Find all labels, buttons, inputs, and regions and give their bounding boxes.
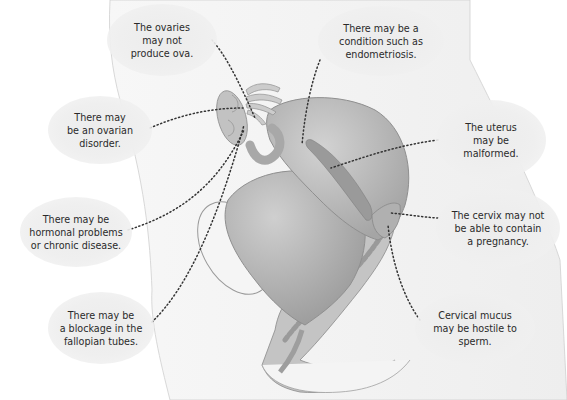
label-text: The uterus may be malformed.: [463, 121, 518, 160]
label-text: There may be a blockage in the fallopian…: [60, 309, 143, 348]
label-text: The cervix may not be able to contain a …: [452, 209, 545, 248]
label-text: The ovaries may not produce ova.: [131, 21, 194, 60]
label-text: Cervical mucus may be hostile to sperm.: [433, 309, 517, 348]
label-text: There may be an ovarian disorder.: [67, 111, 133, 150]
label-cervical-mucus: Cervical mucus may be hostile to sperm.: [415, 292, 535, 364]
label-endometriosis: There may be a condition such as endomet…: [318, 6, 444, 76]
label-uterus-malformed: The uterus may be malformed.: [436, 100, 546, 180]
label-hormonal: There may be hormonal problems or chroni…: [20, 197, 132, 267]
label-cervix: The cervix may not be able to contain a …: [436, 188, 560, 268]
label-text: There may be a condition such as endomet…: [339, 22, 423, 61]
diagram-canvas: The ovaries may not produce ova. There m…: [0, 0, 567, 400]
label-ovaries-ova: The ovaries may not produce ova.: [107, 4, 217, 76]
label-fallopian-blockage: There may be a blockage in the fallopian…: [48, 292, 154, 364]
label-ovarian-disorder: There may be an ovarian disorder.: [48, 96, 152, 164]
label-text: There may be hormonal problems or chroni…: [29, 213, 122, 252]
